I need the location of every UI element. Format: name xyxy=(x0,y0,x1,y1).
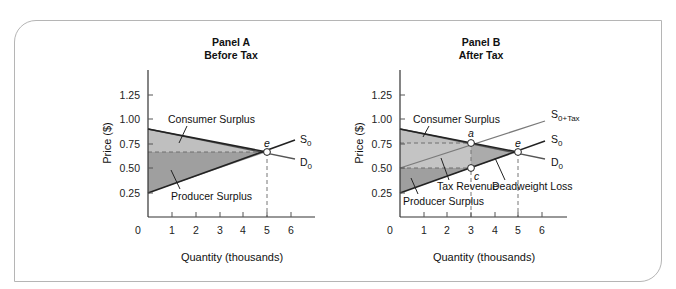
point-a xyxy=(468,140,475,147)
y-axis-title: Price ($) xyxy=(353,122,365,164)
panel-b-title: Panel B xyxy=(462,36,501,48)
y-tick: 1.25 xyxy=(372,89,393,101)
x-axis-title: Quantity (thousands) xyxy=(181,251,283,263)
y-tick: 1.00 xyxy=(372,113,393,125)
supply-tax-label: S0+Tax xyxy=(551,108,580,123)
point-a-label: a xyxy=(468,127,474,139)
demand-label: D0 xyxy=(300,156,313,171)
x-tick: 4 xyxy=(492,224,498,236)
producer-surplus-label: Producer Surplus xyxy=(403,195,484,207)
y-axis-title: Price ($) xyxy=(101,122,113,164)
equilibrium-point xyxy=(264,149,271,156)
y-tick: 1.00 xyxy=(120,113,141,125)
x-tick: 4 xyxy=(240,224,246,236)
x-tick: 5 xyxy=(515,224,521,236)
supply-label: S0 xyxy=(300,133,312,148)
consumer-surplus-label: Consumer Surplus xyxy=(168,113,255,125)
y-tick: 0.75 xyxy=(372,138,393,150)
point-e xyxy=(515,149,522,156)
point-c-label: c xyxy=(474,170,480,182)
point-e-label: e xyxy=(515,137,521,149)
x-axis-title: Quantity (thousands) xyxy=(433,251,535,263)
x-tick: 6 xyxy=(288,224,294,236)
panel-a-subtitle: Before Tax xyxy=(204,49,258,61)
x-tick: 3 xyxy=(217,224,223,236)
chart-canvas: Panel A Before Tax 1.25 1.00 0.75 0.50 0… xyxy=(0,0,676,289)
consumer-surplus-label: Consumer Surplus xyxy=(413,113,500,125)
y-tick: 0.25 xyxy=(372,187,393,199)
panel-a: Panel A Before Tax 1.25 1.00 0.75 0.50 0… xyxy=(101,36,315,263)
y-tick: 1.25 xyxy=(120,89,141,101)
panel-a-title: Panel A xyxy=(212,36,251,48)
tax-revenue-label: Tax Revenue xyxy=(437,180,498,192)
y-tick: 0.25 xyxy=(120,187,141,199)
y-tick: 0.75 xyxy=(120,138,141,150)
deadweight-loss-label: Deadweight Loss xyxy=(492,180,573,192)
panel-b: Panel B After Tax 1.25 1.00 xyxy=(353,36,580,263)
producer-surplus-label: Producer Surplus xyxy=(171,190,252,202)
x-tick: 6 xyxy=(539,224,545,236)
y-tick: 0.50 xyxy=(120,162,141,174)
equilibrium-label: e xyxy=(264,137,270,149)
panel-b-subtitle: After Tax xyxy=(459,49,504,61)
x-tick: 5 xyxy=(264,224,270,236)
x-tick: 1 xyxy=(421,224,427,236)
demand-label: D0 xyxy=(551,156,564,171)
supply-label: S0 xyxy=(551,133,563,148)
x-tick: 0 xyxy=(135,224,141,236)
x-tick: 3 xyxy=(468,224,474,236)
x-tick: 2 xyxy=(193,224,199,236)
x-tick: 2 xyxy=(444,224,450,236)
x-tick: 1 xyxy=(169,224,175,236)
deadweight-loss-pointer xyxy=(495,158,505,180)
y-tick: 0.50 xyxy=(372,162,393,174)
x-tick: 0 xyxy=(387,224,393,236)
